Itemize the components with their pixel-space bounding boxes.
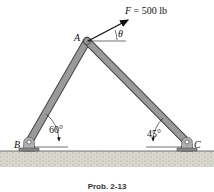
truss-diagram xyxy=(0,0,214,192)
force-symbol: F xyxy=(125,5,131,16)
support-b xyxy=(19,137,39,151)
angle-60-label: 60° xyxy=(49,124,63,135)
force-label: F = 500 lb xyxy=(125,5,167,16)
member-ac xyxy=(87,41,187,142)
angle-theta-label: θ xyxy=(118,28,123,39)
figure-caption: Prob. 2-13 xyxy=(0,182,214,191)
force-value: = 500 lb xyxy=(134,5,167,16)
point-b-label: B xyxy=(14,139,20,150)
point-c-label: C xyxy=(194,139,201,150)
ground xyxy=(0,151,214,167)
angle-45-label: 45° xyxy=(147,128,161,139)
point-a-label: A xyxy=(74,32,80,43)
